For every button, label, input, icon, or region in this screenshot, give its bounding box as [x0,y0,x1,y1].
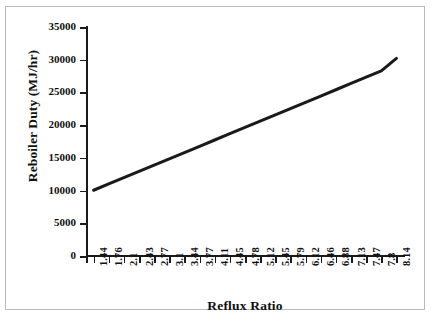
x-tick-mark [396,257,398,263]
x-tick-mark [321,257,323,263]
x-tick-mark [351,257,353,263]
x-tick-mark [215,257,217,263]
x-tick-mark [139,257,141,263]
x-tick-mark [230,257,232,263]
x-tick-mark [336,257,338,263]
x-tick-mark [184,257,186,263]
x-tick-mark [290,257,292,263]
x-tick-mark [366,257,368,263]
series-reboiler-duty [86,26,406,257]
x-tick-mark [154,257,156,263]
x-tick-mark [275,257,277,263]
x-tick-mark [124,257,126,263]
x-tick-mark [381,257,383,263]
x-tick-mark [169,257,171,263]
x-tick-mark [260,257,262,263]
x-tick-mark [94,257,96,263]
x-tick-mark [200,257,202,263]
x-tick-mark [109,257,111,263]
x-tick-mark [86,257,88,263]
x-tick-mark [306,257,308,263]
chart-figure: Reboiler Duty (MJ/hr) Reflux Ratio 05000… [0,0,435,328]
x-tick-mark [245,257,247,263]
